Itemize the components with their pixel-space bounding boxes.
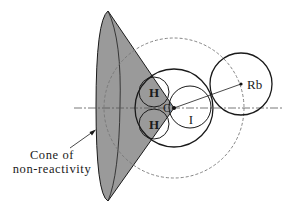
diagram-canvas: H H C I Rb: [0, 0, 295, 218]
label-i: I: [189, 112, 193, 127]
cone-label-line2: non-reactivity: [8, 162, 96, 176]
label-h-upper: H: [149, 85, 159, 100]
cone-label-line1: Cone of: [8, 148, 96, 162]
cone-pointer-arrow: [70, 130, 96, 149]
cone-label: Cone of non-reactivity: [8, 148, 96, 176]
label-c: C: [163, 101, 171, 115]
cone-of-non-reactivity-diagram: H H C I Rb Cone of non-reactivity: [0, 0, 295, 218]
rb-center-dot: [239, 82, 242, 85]
c-center-dot: [172, 106, 176, 110]
label-h-lower: H: [149, 117, 159, 132]
label-rb: Rb: [247, 77, 262, 92]
